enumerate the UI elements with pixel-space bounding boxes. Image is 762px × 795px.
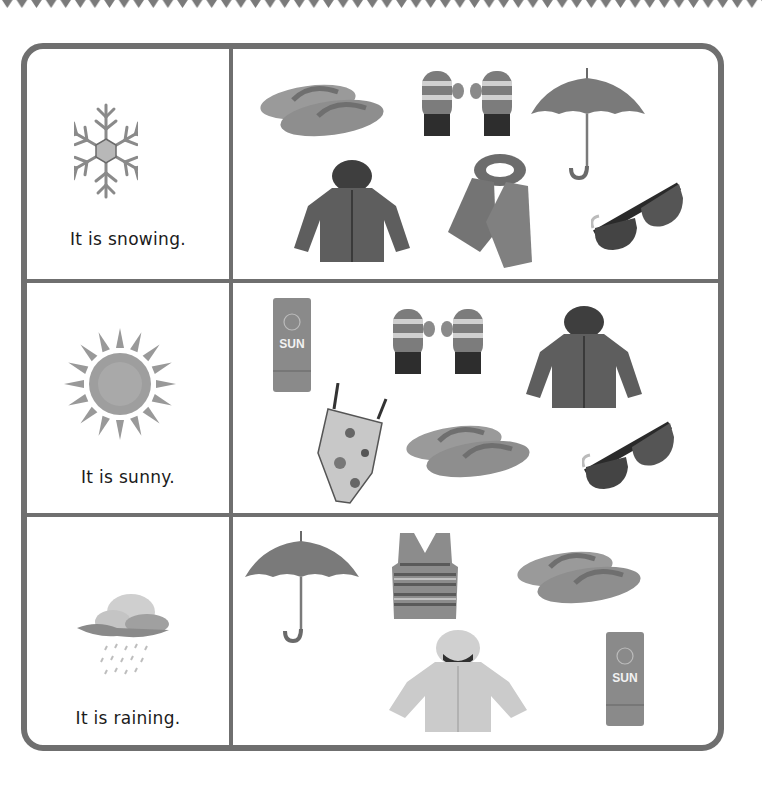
weather-cell-raining: It is raining. bbox=[27, 517, 229, 747]
flip-flops-image[interactable] bbox=[258, 78, 386, 140]
weather-caption: It is snowing. bbox=[27, 229, 229, 249]
mittens-image[interactable] bbox=[422, 69, 512, 139]
zigzag-border-decoration bbox=[0, 0, 762, 10]
weather-cell-snowing: It is snowing. bbox=[27, 49, 229, 279]
sweater-vest-image[interactable] bbox=[392, 533, 458, 619]
umbrella-image[interactable] bbox=[529, 68, 647, 180]
scarf-image[interactable] bbox=[446, 152, 534, 270]
winter-jacket-image[interactable] bbox=[524, 306, 644, 410]
rain-cloud-icon bbox=[77, 590, 173, 686]
winter-jacket-image[interactable] bbox=[292, 160, 412, 264]
swimsuit-image[interactable] bbox=[310, 383, 392, 505]
snowflake-icon bbox=[74, 99, 138, 203]
sunscreen-image[interactable]: SUN bbox=[606, 632, 644, 726]
umbrella-image[interactable] bbox=[243, 531, 361, 643]
weather-caption: It is sunny. bbox=[27, 467, 229, 487]
column-divider bbox=[229, 46, 233, 748]
sunscreen-label: SUN bbox=[612, 671, 637, 685]
weather-caption: It is raining. bbox=[27, 708, 229, 728]
sun-icon bbox=[62, 328, 178, 440]
raincoat-image[interactable] bbox=[387, 630, 529, 734]
mittens-image[interactable] bbox=[393, 307, 483, 377]
sunglasses-image[interactable] bbox=[591, 178, 687, 254]
flip-flops-image[interactable] bbox=[404, 419, 532, 481]
sunglasses-image[interactable] bbox=[582, 417, 678, 493]
flip-flops-image[interactable] bbox=[515, 545, 643, 607]
weather-cell-sunny: It is sunny. bbox=[27, 283, 229, 513]
sunscreen-label: SUN bbox=[279, 337, 304, 351]
sunscreen-image[interactable]: SUN bbox=[273, 298, 311, 392]
